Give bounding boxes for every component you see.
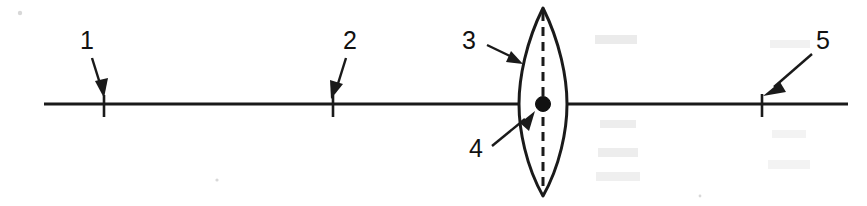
optical-diagram-figure: Converging lens on optical axis with num… [0, 0, 867, 206]
callout-5-leader [774, 54, 812, 87]
callout-3-label: 3 [462, 26, 476, 54]
callout-1-label: 1 [80, 26, 94, 54]
callout-2: 2 [330, 26, 357, 99]
callout-3-arrowhead [506, 51, 523, 64]
callout-5: 5 [763, 26, 830, 96]
callout-2-label: 2 [343, 26, 357, 54]
callout-1: 1 [80, 26, 108, 98]
callout-3: 3 [462, 26, 523, 64]
callout-2-arrowhead [330, 80, 343, 99]
diagram-canvas: Converging lens on optical axis with num… [0, 0, 867, 206]
optical-center-dot [536, 97, 551, 112]
callout-5-label: 5 [816, 26, 830, 54]
callout-1-arrowhead [95, 78, 108, 98]
callout-4-label: 4 [469, 134, 483, 162]
callout-5-arrowhead [763, 82, 786, 96]
